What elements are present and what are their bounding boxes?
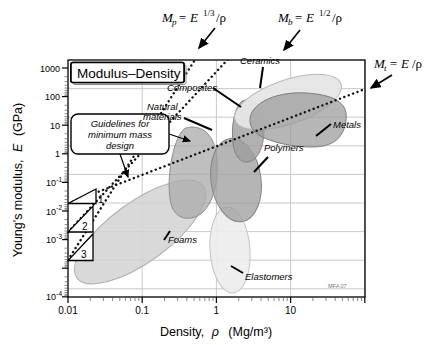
ytick-10em4-exp: -4: [56, 290, 62, 297]
label-Mp-sub: p: [171, 17, 177, 27]
chart-canvas: 1 2 3 Modulus–Density Guidelines for min…: [0, 0, 436, 345]
label-polymers-text: Polymers: [264, 142, 304, 153]
callout-line-1: Guidelines for: [91, 118, 150, 129]
ytick-10em2-exp: -2: [56, 204, 62, 211]
svg-text:Density, ρ (Mg: Density, ρ (Mg/m³): [160, 325, 272, 339]
ytick-10em3-exp: -3: [56, 233, 62, 240]
x-axis-title-main: Density,: [160, 325, 204, 339]
chart-title: Modulus–Density: [77, 66, 181, 81]
ytick-1: 1: [55, 149, 60, 159]
watermark: MFA 07: [328, 283, 347, 289]
x-axis-title-unit: (Mg/m³): [228, 325, 272, 339]
x-axis-title-sym: ρ: [211, 325, 219, 339]
x-axis-title: Density, ρ (Mg/m³): [160, 325, 272, 339]
svg-text:Young's modulus, E: Young's modulus, E (GPa): [11, 103, 25, 257]
ytick-10em3-base: 10: [46, 235, 56, 245]
callout-line-2: minimum mass: [88, 129, 152, 140]
ytick-10em1-exp: -1: [56, 176, 62, 183]
label-ceramics-text: Ceramics: [240, 55, 280, 66]
label-natural-l2: materials: [143, 111, 182, 122]
ashby-chart-page: 1 2 3 Modulus–Density Guidelines for min…: [0, 0, 436, 345]
label-Mb-exp: 1/2: [319, 8, 331, 18]
xtick-1: 1: [214, 305, 220, 316]
y-axis-title-unit: (GPa): [11, 103, 25, 136]
ytick-10em2-base: 10: [46, 207, 56, 217]
slope-triangle-2-label: 2: [82, 221, 88, 232]
label-Mb-eq: = E: [294, 10, 314, 25]
y-axis-title-main: Young's modulus,: [11, 159, 25, 257]
ytick-100: 100: [45, 92, 60, 102]
label-Mb-den: /ρ: [332, 10, 342, 25]
slope-triangle-3-label: 3: [81, 249, 87, 260]
label-Mp-eq: = E: [178, 10, 198, 25]
label-Mt-eq: = E: [389, 56, 409, 71]
label-Mt-den: /ρ: [412, 56, 422, 71]
label-foams: Foams: [164, 231, 197, 245]
ytick-10em1-base: 10: [46, 178, 56, 188]
label-elastomers-text: Elastomers: [245, 271, 293, 282]
label-Mp-exp: 1/3: [203, 8, 215, 18]
ytick-1000: 1000: [40, 64, 60, 74]
slope-triangle-1-label: 1: [98, 194, 104, 205]
y-axis-title: Young's modulus, E (GPa): [11, 103, 25, 257]
xtick-10: 10: [285, 305, 297, 316]
ytick-10: 10: [50, 121, 60, 131]
label-metals-text: Metals: [333, 119, 361, 130]
label-composites-text: Composites: [167, 82, 217, 93]
callout-line-3: design: [106, 140, 134, 151]
y-axis-title-sym: E: [11, 143, 25, 152]
ytick-10em4-base: 10: [46, 292, 56, 302]
xtick-001: 0.01: [58, 305, 78, 316]
label-Mb-sub: b: [288, 17, 293, 27]
xtick-01: 0.1: [135, 305, 149, 316]
label-Mp-den: /ρ: [216, 10, 226, 25]
label-foams-text: Foams: [168, 234, 197, 245]
